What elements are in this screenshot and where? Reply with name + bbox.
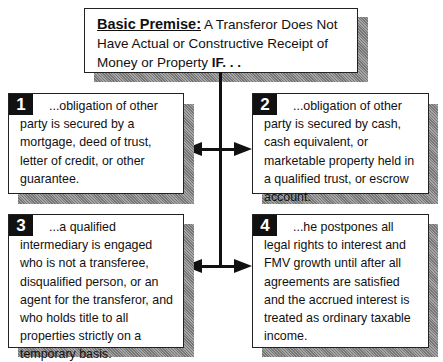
condition-text: ...obligation of other party is secured … [20, 99, 158, 186]
connector-vertical-line [219, 72, 222, 268]
premise-lead: Basic Premise: [97, 16, 201, 32]
arrow-right-icon [234, 142, 252, 156]
arrow-right-icon [234, 259, 252, 273]
condition-number-badge: 4 [253, 215, 277, 236]
premise-if: IF. . . [212, 55, 241, 70]
condition-number-badge: 1 [9, 94, 33, 115]
condition-card-1: 1 ...obligation of other party is secure… [8, 93, 184, 194]
condition-number-badge: 2 [253, 94, 277, 115]
premise-box: Basic Premise: A Transferor Does Not Hav… [84, 8, 358, 73]
condition-number-badge: 3 [9, 215, 33, 236]
condition-text: ...he postpones all legal rights to inte… [264, 220, 411, 343]
condition-card-2: 2 ...obligation of other party is secure… [252, 93, 429, 194]
condition-card-4: 4 ...he postpones all legal rights to in… [252, 214, 429, 348]
condition-text: ...obligation of other party is secured … [264, 99, 414, 204]
condition-text: ...a qualified intermediary is engaged w… [20, 220, 173, 361]
condition-card-3: 3 ...a qualified intermediary is engaged… [8, 214, 184, 348]
